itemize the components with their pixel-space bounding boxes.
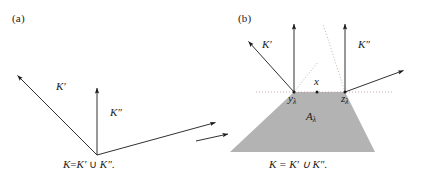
panel-a-ray-lower-right-continuation — [196, 134, 228, 141]
panel-a-ray-lower-right — [97, 123, 216, 156]
dotted-right-cone-edge — [323, 24, 345, 92]
panel-b-region — [230, 92, 375, 152]
y-lambda-subscript: λ — [293, 97, 296, 106]
panel-a-caption-union: ∪ — [89, 158, 97, 170]
panel-b-vertex-left-label: yλ — [288, 92, 296, 106]
region-a-lambda-shape — [230, 92, 375, 152]
panel-a-label: (a) — [12, 12, 25, 24]
panel-b-left-cone — [249, 24, 295, 92]
panel-b-region-label: Aλ — [306, 110, 316, 124]
point-x — [316, 91, 319, 94]
panel-a-caption: K=K′ ∪ K″. — [63, 158, 114, 171]
a-lambda-subscript: λ — [313, 115, 316, 124]
z-lambda-subscript: λ — [345, 97, 348, 106]
panel-b-right-cone — [345, 24, 404, 92]
panel-a-cone-left-label: K′ — [56, 80, 66, 92]
a-lambda-base: A — [306, 110, 313, 122]
panel-b-caption: K = K′ ∪ K″. — [269, 158, 327, 171]
panel-a-caption-kpp: K″ — [100, 158, 112, 170]
panel-a-cone-right-label: K″ — [110, 106, 122, 118]
panel-b-cone-left-label: K′ — [262, 38, 272, 50]
panel-b-cone-right-label: K″ — [358, 38, 370, 50]
panel-b-point-x-label: x — [314, 75, 319, 87]
panel-b-vertex-right-label: zλ — [341, 92, 349, 106]
panel-a-caption-period: . — [112, 158, 115, 170]
panel-a-caption-kp: K′ — [77, 158, 87, 170]
right-cone-ray-upper-right — [345, 71, 404, 93]
panel-b-label: (b) — [238, 12, 251, 24]
